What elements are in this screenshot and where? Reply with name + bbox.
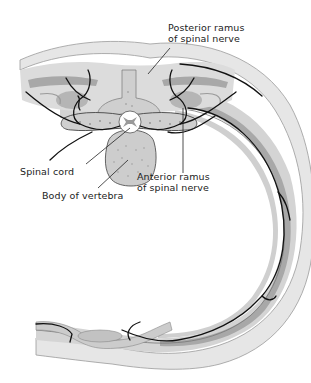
- body-of-vertebra-label: Body of vertebra: [42, 190, 123, 201]
- anterior-ramus-label-line1: Anterior ramus: [137, 171, 210, 182]
- posterior-ramus-label-line1: Posterior ramus: [168, 22, 244, 33]
- body-of-vertebra-label-text: Body of vertebra: [42, 190, 123, 201]
- anterior-ramus-label-line2: of spinal nerve: [137, 182, 210, 193]
- spinal-cord: [119, 111, 141, 133]
- spinal-cord-label-text: Spinal cord: [20, 166, 74, 177]
- posterior-ramus-label: Posterior ramus of spinal nerve: [168, 22, 244, 44]
- spinal-cord-label: Spinal cord: [20, 166, 74, 177]
- anterior-ramus-label: Anterior ramus of spinal nerve: [137, 171, 210, 193]
- posterior-ramus-label-line2: of spinal nerve: [168, 33, 244, 44]
